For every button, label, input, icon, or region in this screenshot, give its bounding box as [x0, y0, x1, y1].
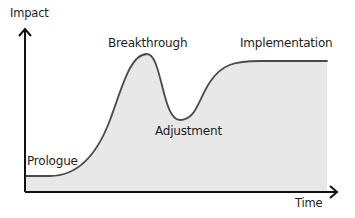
stage-label-breakthrough: Breakthrough: [108, 37, 187, 49]
stage-label-adjustment: Adjustment: [155, 125, 222, 137]
stage-label-prologue: Prologue: [27, 155, 78, 167]
stage-label-implementation: Implementation: [240, 37, 333, 49]
x-axis-label: Time: [295, 198, 322, 210]
impact-curve-diagram: [0, 0, 355, 218]
y-axis-label: Impact: [10, 8, 49, 20]
